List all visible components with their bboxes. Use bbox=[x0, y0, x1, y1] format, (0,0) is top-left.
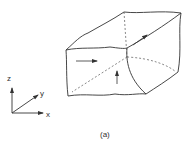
coordinate-axes bbox=[12, 88, 43, 113]
diagram: z y x (a) bbox=[0, 0, 191, 149]
arrow-top-diagonal bbox=[133, 35, 147, 45]
x-axis-label: x bbox=[46, 110, 50, 119]
stress-arrows bbox=[76, 35, 147, 84]
rock-block bbox=[66, 12, 181, 96]
z-axis-label: z bbox=[7, 74, 11, 83]
figure-caption: (a) bbox=[100, 130, 110, 139]
y-axis bbox=[12, 95, 38, 113]
y-axis-label: y bbox=[40, 89, 44, 98]
hidden-edges bbox=[72, 12, 176, 92]
